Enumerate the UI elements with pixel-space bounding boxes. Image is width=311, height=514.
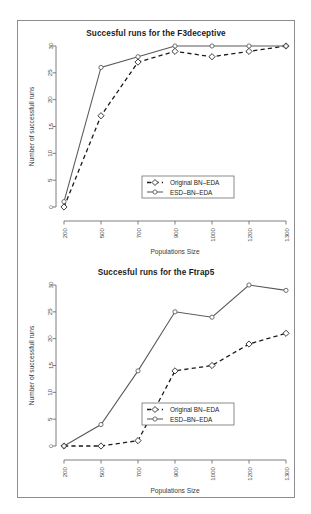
x-tick-label: 200 xyxy=(61,227,68,238)
legend-marker-circle xyxy=(153,190,157,194)
y-tick-label: 25 xyxy=(47,308,54,315)
chart-legend: Original BN–EDAESD–BN–EDA xyxy=(142,403,234,425)
y-tick-label: 0 xyxy=(47,444,54,448)
data-point-diamond xyxy=(172,48,178,54)
x-tick-label: 200 xyxy=(61,466,68,477)
chart-panel-ftrap5: Succesful runs for the Ftrap5 0510152025… xyxy=(18,260,294,499)
y-axis-title: Number of successfull runs xyxy=(28,86,35,166)
x-tick-label: 1000 xyxy=(209,227,216,241)
data-point-diamond xyxy=(209,362,215,368)
y-tick-label: 30 xyxy=(47,42,54,49)
x-tick-label: 500 xyxy=(98,466,105,477)
x-tick-label: 500 xyxy=(98,227,105,238)
x-tick-label: 1000 xyxy=(209,466,216,480)
data-point-diamond xyxy=(172,368,178,374)
x-tick-label: 900 xyxy=(172,227,179,238)
y-tick-label: 10 xyxy=(47,149,54,156)
chart-legend: Original BN–EDAESD–BN–EDA xyxy=(142,176,234,198)
y-tick-label: 15 xyxy=(47,123,54,130)
x-tick-label: 700 xyxy=(135,227,142,238)
x-tick-label: 1300 xyxy=(283,466,290,480)
data-point-circle xyxy=(136,369,140,373)
legend-label-0: Original BN–EDA xyxy=(170,179,220,187)
plot-area-top: 051015202530Number of successfull runs20… xyxy=(18,21,294,260)
x-tick-label: 1200 xyxy=(246,466,253,480)
data-point-diamond xyxy=(246,48,252,54)
legend-label-0: Original BN–EDA xyxy=(170,406,220,414)
data-point-circle xyxy=(210,44,214,48)
y-tick-label: 25 xyxy=(47,69,54,76)
y-tick-label: 0 xyxy=(47,205,54,209)
data-point-diamond xyxy=(283,330,289,336)
data-point-circle xyxy=(284,44,288,48)
series-line-dashed xyxy=(64,333,286,446)
data-point-diamond xyxy=(135,438,141,444)
legend-label-1: ESD–BN–EDA xyxy=(170,416,213,423)
y-tick-label: 5 xyxy=(47,178,54,182)
data-point-diamond xyxy=(246,341,252,347)
data-point-diamond xyxy=(98,443,104,449)
data-point-circle xyxy=(173,310,177,314)
data-point-circle xyxy=(99,422,103,426)
y-tick-label: 20 xyxy=(47,335,54,342)
legend-label-1: ESD–BN–EDA xyxy=(170,189,213,196)
data-point-circle xyxy=(62,200,66,204)
data-point-diamond xyxy=(61,204,67,210)
legend-marker-circle xyxy=(153,417,157,421)
figure-frame: Succesful runs for the F3deceptive 05101… xyxy=(17,20,295,498)
x-tick-label: 700 xyxy=(135,466,142,477)
y-tick-label: 20 xyxy=(47,96,54,103)
data-point-circle xyxy=(136,55,140,59)
y-axis-title: Number of successfull runs xyxy=(28,325,35,405)
data-point-diamond xyxy=(98,113,104,119)
x-tick-label: 900 xyxy=(172,466,179,477)
plot-area-bottom: 051015202530Number of successfull runs20… xyxy=(18,260,294,499)
y-tick-label: 15 xyxy=(47,362,54,369)
data-point-circle xyxy=(173,44,177,48)
x-tick-label: 1300 xyxy=(283,227,290,241)
y-tick-label: 30 xyxy=(47,281,54,288)
x-axis-title: Populations Size xyxy=(150,248,199,256)
data-point-circle xyxy=(62,444,66,448)
data-point-circle xyxy=(210,315,214,319)
chart-panel-f3deceptive: Succesful runs for the F3deceptive 05101… xyxy=(18,21,294,260)
data-point-circle xyxy=(247,44,251,48)
data-point-diamond xyxy=(209,54,215,60)
data-point-circle xyxy=(99,65,103,69)
x-tick-label: 1200 xyxy=(246,227,253,241)
data-point-circle xyxy=(247,283,251,287)
y-tick-label: 10 xyxy=(47,388,54,395)
data-point-circle xyxy=(284,288,288,292)
x-axis-title: Populations Size xyxy=(150,487,199,495)
y-tick-label: 5 xyxy=(47,417,54,421)
data-point-diamond xyxy=(135,59,141,65)
